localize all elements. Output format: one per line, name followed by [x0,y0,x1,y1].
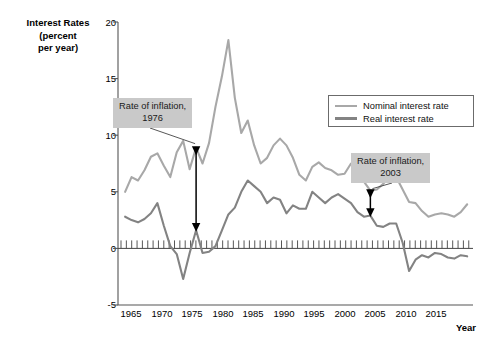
annotation-2003-line-2: 2003 [357,168,424,180]
legend-swatch-nominal [335,105,357,107]
y-tick-marks [113,22,118,305]
legend-label-nominal: Nominal interest rate [363,101,449,111]
chart-figure: Interest Rates (percent per year) Year 2… [0,0,490,342]
annotation-rate-of-inflation-1976: Rate of inflation, 1976 [113,98,192,128]
legend-item-nominal-interest-rate: Nominal interest rate [335,99,473,112]
legend-swatch-real [335,117,357,120]
annotation-rate-of-inflation-2003: Rate of inflation, 2003 [351,153,430,183]
legend-item-real-interest-rate: Real interest rate [335,112,473,125]
annotation-2003-line-1: Rate of inflation, [357,156,424,168]
annotation-1976-line-2: 1976 [119,113,186,125]
annotation-1976-line-1: Rate of inflation, [119,101,186,113]
series-line-nominal-interest-rate [125,40,467,217]
legend-label-real: Real interest rate [363,114,434,124]
series-line-real-interest-rate [125,180,467,278]
chart-legend: Nominal interest rate Real interest rate [328,95,474,127]
zero-line-hatching [121,240,469,248]
leader-line-1976 [150,128,195,144]
